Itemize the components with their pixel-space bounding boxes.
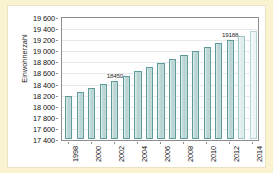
y-axis-tick-mark: [56, 29, 58, 30]
bar: [192, 51, 199, 139]
y-axis-tick-label: 19 400: [33, 25, 55, 34]
y-axis-tick-label: 19 600: [33, 14, 55, 23]
y-axis-tick-label: 17 800: [33, 113, 55, 122]
bar: [204, 47, 211, 139]
x-axis-tick-labels: 199820002002200420062008201020122014: [61, 142, 259, 173]
y-axis-tick-mark: [56, 129, 58, 130]
chart-card: Einwohnerzahl 17 40017 60017 80018 00018…: [7, 5, 266, 168]
y-axis-tick-label: 18 600: [33, 69, 55, 78]
x-axis-tick-mark: [91, 142, 92, 144]
y-axis-tick-label: 19 200: [33, 36, 55, 45]
y-axis-tick-mark: [56, 18, 58, 19]
bar-series: 1845019188: [63, 19, 257, 139]
bar: [238, 36, 245, 139]
bar: [100, 84, 107, 139]
x-axis-tick-label: 2004: [140, 146, 149, 162]
bar: [111, 81, 118, 139]
plot-area: 1845019188: [61, 17, 259, 141]
bar: [77, 92, 84, 139]
bar: [227, 40, 234, 139]
bar: [123, 76, 130, 139]
x-axis-tick-label: 2008: [186, 146, 195, 162]
y-axis-tick-label: 18 000: [33, 102, 55, 111]
x-axis-tick-mark: [229, 142, 230, 144]
x-axis-tick-mark: [160, 142, 161, 144]
y-axis-tick-label: 18 200: [33, 91, 55, 100]
y-axis-tick-mark: [56, 73, 58, 74]
y-axis-tick-mark: [56, 51, 58, 52]
y-axis-tick-mark: [56, 118, 58, 119]
x-axis-tick-label: 2012: [232, 146, 241, 162]
y-axis-tick-mark: [56, 85, 58, 86]
bar-value-label: 18450: [107, 72, 123, 79]
x-axis-tick-label: 2006: [163, 146, 172, 162]
y-axis-tick-mark: [56, 96, 58, 97]
x-axis-tick-mark: [183, 142, 184, 144]
x-axis-tick-label: 2002: [117, 146, 126, 162]
bar: [215, 43, 222, 139]
bar: [146, 67, 153, 139]
x-axis-tick-mark: [114, 142, 115, 144]
y-axis-tick-label: 18 800: [33, 58, 55, 67]
x-axis-tick-mark: [137, 142, 138, 144]
bar: [88, 88, 95, 139]
y-axis-tick-label: 19 000: [33, 47, 55, 56]
y-axis-tick-label: 17 600: [33, 124, 55, 133]
x-axis-tick-label: 2000: [94, 146, 103, 162]
bar: [157, 63, 164, 139]
x-axis-tick-mark: [68, 142, 69, 144]
bar: [65, 96, 72, 139]
bar: [134, 71, 141, 139]
x-axis-tick-mark: [206, 142, 207, 144]
x-axis-tick-label: 1998: [71, 146, 80, 162]
chart-figure: Einwohnerzahl 17 40017 60017 80018 00018…: [0, 0, 273, 173]
y-axis-tick-mark: [56, 107, 58, 108]
y-axis-tick-mark: [56, 62, 58, 63]
y-axis-tick-label: 17 400: [33, 136, 55, 145]
bar: [169, 59, 176, 139]
y-axis-tick-labels: 17 40017 60017 80018 00018 20018 40018 6…: [8, 17, 58, 141]
y-axis-tick-label: 18 400: [33, 80, 55, 89]
bar-value-label: 19188: [222, 31, 238, 38]
y-axis-tick-mark: [56, 140, 58, 141]
x-axis-tick-label: 2010: [209, 146, 218, 162]
bar: [180, 55, 187, 139]
y-axis-tick-mark: [56, 40, 58, 41]
x-axis-tick-mark: [252, 142, 253, 144]
x-axis-tick-label: 2014: [255, 146, 264, 162]
bar: [250, 31, 257, 139]
